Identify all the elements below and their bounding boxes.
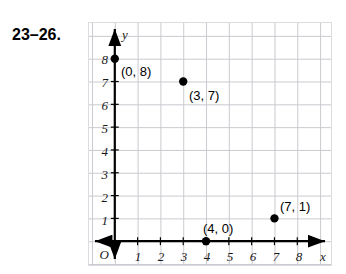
plotted-points xyxy=(89,23,331,265)
coordinate-plane-figure: O x y 1234567812345678(0, 8)(3, 7)(7, 1)… xyxy=(88,22,332,266)
data-point xyxy=(179,77,187,85)
exercise-number: 23–26. xyxy=(12,26,61,44)
data-point xyxy=(270,214,278,222)
data-point xyxy=(111,55,119,63)
data-point xyxy=(202,237,210,245)
